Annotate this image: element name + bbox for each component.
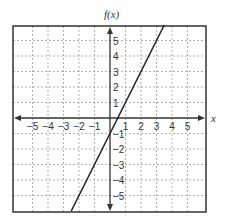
y-tick-label: −2 [113, 144, 125, 155]
x-tick-label: −1 [89, 121, 101, 132]
x-axis-left-arrow-icon [14, 115, 21, 121]
x-tick-label: −4 [42, 121, 54, 132]
y-axis-down-arrow-icon [107, 204, 113, 211]
y-axis-up-arrow-icon [107, 27, 113, 34]
x-axis-label: x [210, 112, 216, 124]
x-tick-label: −2 [73, 121, 85, 132]
x-tick-label: 4 [169, 121, 175, 132]
x-tick-label: 5 [185, 121, 191, 132]
x-axis-right-arrow-icon [198, 115, 205, 121]
y-tick-label: −4 [113, 175, 125, 186]
y-tick-label: 1 [113, 98, 119, 109]
x-tick-label: 3 [154, 121, 160, 132]
x-tick-label: −5 [27, 121, 39, 132]
y-tick-label: 2 [113, 82, 119, 93]
y-tick-label: −3 [113, 160, 125, 171]
coordinate-plane: −5−4−3−2−11234554321−1−2−3−4−5 f(x) x [0, 0, 227, 223]
y-tick-label: 4 [113, 51, 119, 62]
y-tick-label: 3 [113, 67, 119, 78]
x-tick-label: 2 [138, 121, 144, 132]
y-tick-label: 5 [113, 36, 119, 47]
y-axis-label: f(x) [104, 8, 120, 21]
y-tick-label: −5 [113, 191, 125, 202]
y-tick-label: −1 [113, 129, 125, 140]
x-tick-label: −3 [58, 121, 70, 132]
axes [14, 27, 205, 211]
